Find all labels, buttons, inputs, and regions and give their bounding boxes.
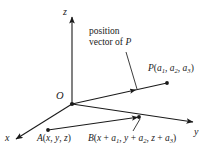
point-P-c3-sub: 3	[187, 67, 190, 74]
point-A-label: A(x, y, z)	[37, 133, 71, 144]
point-P-dot	[165, 81, 169, 85]
point-P-label: P(a1, a2, a3)	[148, 63, 194, 74]
point-B-label: B(x + a1, y + a2, z + a3)	[88, 133, 176, 144]
position-vector-annotation-line1: position	[89, 26, 131, 37]
point-P-c2-sub: 2	[175, 67, 178, 74]
point-B-dot	[137, 115, 141, 119]
y-axis	[72, 104, 193, 122]
leader-line-position-vector	[126, 52, 137, 89]
point-P-c2: a	[170, 63, 175, 73]
position-vector-annotation-line2: vector of P	[89, 37, 131, 48]
position-vector-annotation-line2-var: P	[125, 37, 131, 47]
x-axis-label: x	[5, 132, 9, 143]
point-P-c1-sub: 1	[162, 67, 165, 74]
position-vector-OP	[72, 83, 167, 104]
position-vector-annotation-line2-text: vector of	[89, 37, 125, 47]
leader-line-point-B	[133, 119, 140, 131]
position-vector-annotation: position vector of P	[89, 26, 131, 47]
origin-dot	[70, 102, 74, 106]
origin-label: O	[56, 90, 64, 102]
vector-AB	[48, 117, 139, 130]
y-axis-label: y	[194, 126, 198, 137]
z-axis-label: z	[63, 6, 67, 17]
point-A-dot	[46, 128, 50, 132]
vector-diagram-figure: z y x O position vector of P P(a1, a2, a…	[0, 0, 209, 158]
